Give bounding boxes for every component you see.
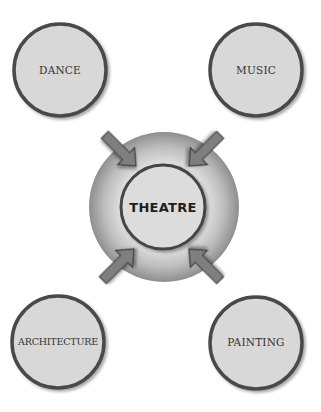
node-dance: DANCE bbox=[14, 24, 106, 116]
node-music: MUSIC bbox=[210, 24, 302, 116]
node-architecture: ARCHITECTURE bbox=[12, 296, 104, 388]
node-painting-label: PAINTING bbox=[227, 336, 284, 348]
node-theatre-label: THEATRE bbox=[129, 200, 197, 215]
node-music-label: MUSIC bbox=[236, 64, 276, 76]
node-dance-label: DANCE bbox=[39, 64, 81, 76]
node-painting: PAINTING bbox=[210, 297, 302, 389]
node-architecture-label: ARCHITECTURE bbox=[17, 336, 98, 347]
node-theatre: THEATRE bbox=[121, 165, 205, 249]
theatre-diagram: THEATRE DANCE MUSIC ARCHITECTURE PAINTIN… bbox=[0, 0, 321, 412]
